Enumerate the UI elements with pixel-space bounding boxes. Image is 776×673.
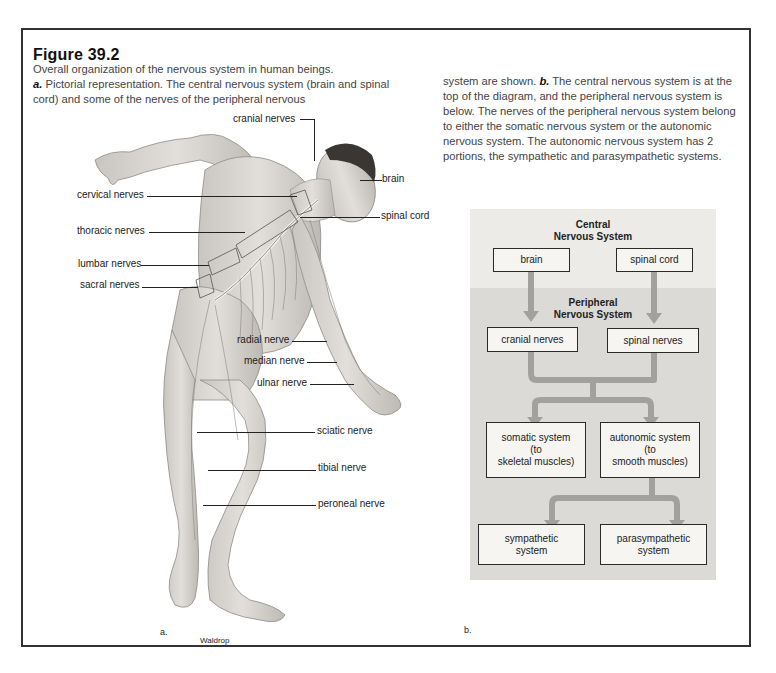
label-sciatic-nerve: sciatic nerve bbox=[317, 425, 373, 436]
label-median-nerve: median nerve bbox=[244, 355, 305, 366]
autonomic-line3: smooth muscles) bbox=[612, 456, 688, 467]
box-autonomic-system-label: autonomic system (to smooth muscles) bbox=[610, 432, 691, 468]
box-sympathetic-system: sympathetic system bbox=[478, 524, 585, 565]
leader-radial-nerve bbox=[292, 341, 327, 342]
panel-b-label: b. bbox=[464, 625, 472, 635]
leader-peroneal-nerve bbox=[203, 505, 316, 506]
label-sacral-nerves: sacral nerves bbox=[80, 279, 139, 290]
human-nervous-system-illustration bbox=[0, 0, 470, 650]
peripheral-ns-title-line1: Peripheral bbox=[569, 297, 618, 308]
leader-thoracic-nerves bbox=[149, 232, 245, 233]
box-cranial-nerves: cranial nerves bbox=[487, 327, 578, 352]
figure-frame-right bbox=[749, 28, 751, 646]
leader-ulnar-nerve bbox=[310, 384, 354, 385]
box-somatic-system: somatic system (to skeletal muscles) bbox=[486, 422, 586, 478]
peripheral-ns-title: Peripheral Nervous System bbox=[470, 297, 716, 321]
leader-sacral-nerves bbox=[142, 287, 198, 288]
somatic-line1: somatic system bbox=[502, 432, 571, 443]
label-lumbar-nerves: lumbar nerves bbox=[78, 258, 141, 269]
leader-cranial-nerves bbox=[300, 119, 314, 120]
label-brain: brain bbox=[382, 173, 404, 184]
label-ulnar-nerve: ulnar nerve bbox=[257, 377, 307, 388]
central-ns-title-line2: Nervous System bbox=[554, 231, 632, 242]
leader-brain bbox=[360, 180, 382, 181]
box-parasympathetic-system: parasympathetic system bbox=[600, 524, 707, 565]
leader-tibial-nerve bbox=[208, 470, 316, 471]
somatic-line3: skeletal muscles) bbox=[498, 456, 575, 467]
label-thoracic-nerves: thoracic nerves bbox=[77, 225, 145, 236]
box-brain-label: brain bbox=[520, 254, 542, 266]
illustrator-credit: Waldrop bbox=[200, 636, 230, 645]
caption-b-text: The central nervous system is at the top… bbox=[443, 75, 736, 162]
leader-spinal-cord bbox=[300, 217, 380, 218]
somatic-line2: (to bbox=[530, 444, 542, 455]
label-peroneal-nerve: peroneal nerve bbox=[318, 498, 385, 509]
box-spinal-cord-label: spinal cord bbox=[630, 254, 678, 266]
panel-a-label: a. bbox=[160, 627, 168, 637]
central-ns-title: Central Nervous System bbox=[470, 219, 716, 243]
box-brain: brain bbox=[493, 248, 570, 272]
caption-b-marker: b. bbox=[539, 75, 549, 87]
parasympathetic-line1: parasympathetic bbox=[617, 533, 690, 544]
caption-right: system are shown. b. The central nervous… bbox=[443, 74, 743, 164]
box-sympathetic-system-label: sympathetic system bbox=[505, 533, 558, 557]
peripheral-ns-title-line2: Nervous System bbox=[554, 309, 632, 320]
label-cranial-nerves: cranial nerves bbox=[233, 113, 295, 124]
autonomic-line2: (to bbox=[644, 444, 656, 455]
autonomic-line1: autonomic system bbox=[610, 432, 691, 443]
label-cervical-nerves: cervical nerves bbox=[77, 189, 144, 200]
sympathetic-line2: system bbox=[516, 545, 548, 556]
leader-cervical-nerves bbox=[147, 196, 297, 197]
box-parasympathetic-system-label: parasympathetic system bbox=[617, 533, 690, 557]
box-spinal-cord: spinal cord bbox=[616, 248, 693, 272]
label-radial-nerve: radial nerve bbox=[237, 334, 289, 345]
label-tibial-nerve: tibial nerve bbox=[318, 462, 366, 473]
parasympathetic-line2: system bbox=[638, 545, 670, 556]
leader-lumbar-nerves bbox=[141, 265, 209, 266]
box-somatic-system-label: somatic system (to skeletal muscles) bbox=[498, 432, 575, 468]
label-spinal-cord: spinal cord bbox=[381, 210, 429, 221]
leader-sciatic-nerve bbox=[197, 432, 315, 433]
box-autonomic-system: autonomic system (to smooth muscles) bbox=[600, 422, 700, 478]
box-cranial-nerves-label: cranial nerves bbox=[501, 334, 563, 346]
sympathetic-line1: sympathetic bbox=[505, 533, 558, 544]
central-ns-title-line1: Central bbox=[576, 219, 610, 230]
leader-cranial-nerves-v bbox=[314, 119, 315, 161]
box-spinal-nerves: spinal nerves bbox=[607, 328, 699, 353]
box-spinal-nerves-label: spinal nerves bbox=[624, 335, 683, 347]
leader-median-nerve bbox=[307, 362, 337, 363]
